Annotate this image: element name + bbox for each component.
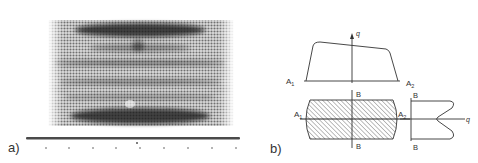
q-axis-arrow-icon	[350, 33, 354, 39]
scale-bar	[26, 137, 240, 149]
section-b-bottom-label: B	[356, 142, 361, 151]
cross-section	[300, 90, 410, 148]
schematic-diagram: q A1 A2 B B A1 A2 q B B	[250, 0, 478, 163]
section-a2-label: A2	[398, 110, 406, 120]
top-a1-label: A1	[286, 77, 294, 87]
panel-a-label: a)	[8, 140, 20, 155]
panel-a-photograph: a)	[0, 0, 250, 163]
side-b-top-label: B	[413, 91, 418, 100]
section-b-top-label: B	[356, 90, 361, 99]
top-profile	[304, 33, 400, 83]
panel-b-schematic: b) q A1 A2 B B A1	[250, 0, 478, 163]
top-q-label: q	[356, 30, 360, 38]
top-a2-label: A2	[406, 79, 414, 89]
side-profile-curve	[411, 101, 454, 139]
side-q-label: q	[466, 116, 470, 124]
halftone-band-pattern	[0, 0, 250, 163]
section-a1-label: A1	[294, 110, 302, 120]
scale-ticks	[45, 142, 237, 149]
side-b-bottom-label: B	[413, 143, 418, 152]
